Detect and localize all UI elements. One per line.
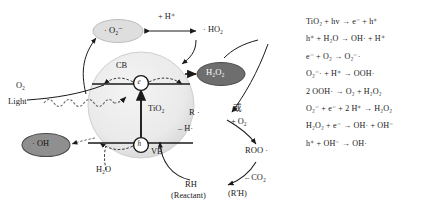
conduction-band-label: CB (116, 62, 127, 70)
electron-label: e (138, 79, 141, 86)
reactant-note-label: (Reactant) (171, 192, 206, 200)
equation-row: 2 OOH· → O₂ + H₂O₂ (306, 88, 428, 96)
hydroperoxyl-label: · HO₂ (203, 26, 223, 34)
proton-addition-label: + H⁺ (158, 13, 175, 21)
equation-row: h⁺ + H₂O → OH· + H⁺ (306, 35, 428, 43)
equation-row: e⁻ + O₂ → O₂⁻· (306, 53, 428, 61)
co2-release-label: – CO₂ (245, 174, 266, 182)
reactant-label: RH (185, 180, 197, 189)
equation-row: H₂O₂ + e⁻ → OH· + OH⁻ (306, 122, 428, 130)
photocatalysis-diagram: · O₂⁻ + H⁺ · HO₂ H₂O₂ CB VB e h TiO₂ Lig… (0, 0, 429, 210)
electron-circle (134, 76, 149, 91)
hole-label: h (138, 141, 142, 148)
equation-row: O₂⁻ + e⁻ + 2 H⁺ → H₂O₂ (306, 105, 428, 113)
or-label: 或 (233, 104, 242, 113)
equation-row: O₂⁻· + H⁺ → OOH· (306, 70, 428, 78)
hydrogen-peroxide-label: H₂O₂ (206, 68, 224, 77)
valence-band-label: VB (151, 148, 163, 156)
particle-label: TiO₂ (148, 104, 165, 113)
ho2-down-curve (182, 40, 196, 64)
hydroxyl-radical-label: · OH (32, 140, 49, 148)
superoxide-label: · O₂⁻ (104, 26, 123, 35)
light-label: Light (8, 97, 27, 106)
equation-row: TiO₂ + hv → e⁻ + h⁺ (306, 18, 428, 26)
equation-list: TiO₂ + hv → e⁻ + h⁺ h⁺ + H₂O → OH· + H⁺ … (306, 18, 428, 157)
water-label: H₂O (96, 166, 111, 174)
oxygen-addition-label: + O₂ (231, 118, 247, 126)
product-label: (R'H) (228, 190, 247, 198)
equation-row: h⁺ + OH⁻ → OH· (306, 140, 428, 148)
oxygen-label: O₂ (16, 82, 25, 90)
carbon-radical-label: R · (189, 108, 200, 117)
peroxy-radical-label: ROO · (245, 146, 268, 155)
h-radical-loss-label: – H· (178, 125, 193, 133)
peroxide-inflow-curve (224, 40, 258, 58)
